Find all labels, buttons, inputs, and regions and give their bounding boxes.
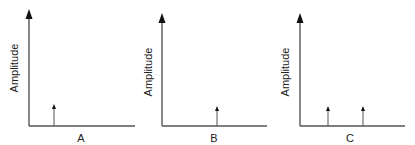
y-axis-label: Amplitude [279,48,291,97]
panel-b: Amplitude B [142,13,267,144]
impulse-diagram: Amplitude A Amplitude B Amplitude C [0,0,415,145]
impulse-arrow-icon [52,104,56,109]
impulse-arrow-icon [215,106,219,111]
y-axis-arrow-icon [297,13,304,23]
x-axis-label: B [210,132,217,144]
y-axis-arrow-icon [159,13,166,23]
panel-a: Amplitude A [8,9,135,144]
x-axis-label: A [77,132,85,144]
impulse-arrow-icon [326,106,330,111]
y-axis-label: Amplitude [142,48,154,97]
y-axis-arrow-icon [26,9,33,19]
y-axis-label: Amplitude [8,44,20,93]
impulse-arrow-icon [361,106,365,111]
panel-c: Amplitude C [279,13,405,144]
x-axis-label: C [346,132,354,144]
